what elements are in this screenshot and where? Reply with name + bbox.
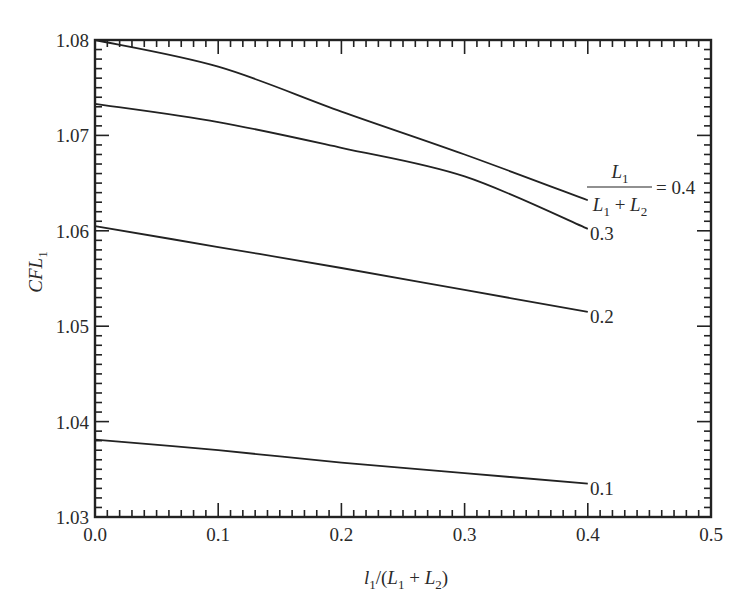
curve-label-0.1: 0.1 <box>590 478 614 499</box>
curve-0.2 <box>95 226 588 312</box>
curve-0.1 <box>95 440 588 484</box>
y-tick-label: 1.05 <box>56 316 89 337</box>
y-tick-label: 1.04 <box>56 412 90 433</box>
x-tick-label: 0.1 <box>206 524 230 545</box>
curves <box>95 40 588 484</box>
y-tick-label: 1.03 <box>56 507 89 528</box>
chart: 0.00.10.20.30.40.51.031.041.051.061.071.… <box>0 0 752 607</box>
curve-label-0.2: 0.2 <box>590 306 614 327</box>
legend-annotation-04: L1 L1 + L2 = 0.4 <box>587 161 696 219</box>
x-tick-label: 0.3 <box>453 524 477 545</box>
x-axis-label: l1/(L1 + L2) <box>364 567 448 592</box>
x-tick-label: 0.4 <box>576 524 600 545</box>
tick-labels: 0.00.10.20.30.40.51.031.041.051.061.071.… <box>56 30 723 545</box>
curve-label-0.3: 0.3 <box>590 223 614 244</box>
legend-denominator: L1 + L2 <box>592 194 647 219</box>
legend-equals-value: = 0.4 <box>656 177 696 198</box>
y-tick-label: 1.07 <box>56 125 89 146</box>
y-tick-label: 1.08 <box>56 30 89 51</box>
x-tick-label: 0.5 <box>699 524 723 545</box>
curve-0.4 <box>95 40 588 200</box>
legend-numerator: L1 <box>610 161 628 186</box>
x-tick-label: 0.2 <box>330 524 354 545</box>
curve-0.3 <box>95 104 588 229</box>
y-tick-label: 1.06 <box>56 221 89 242</box>
y-axis-label: CFL1 <box>25 251 50 292</box>
